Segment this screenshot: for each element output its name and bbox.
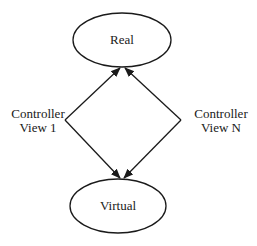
node-real: Real <box>73 13 171 67</box>
label-view1-line1: Controller <box>11 106 65 121</box>
virtual-label: Virtual <box>100 198 136 213</box>
label-view1-line2: View 1 <box>19 120 56 135</box>
label-controller-view-n: Controller View N <box>194 106 248 135</box>
arrow-view1-to-virtual <box>65 120 120 178</box>
label-controller-view-1: Controller View 1 <box>11 106 65 135</box>
label-viewn-line2: View N <box>201 120 242 135</box>
edges-controller-view-1 <box>65 68 120 178</box>
arrow-viewn-to-real <box>125 68 181 120</box>
arrow-view1-to-real <box>65 68 120 120</box>
real-label: Real <box>110 32 134 47</box>
label-viewn-line1: Controller <box>194 106 248 121</box>
node-virtual: Virtual <box>70 179 166 233</box>
diagram-canvas: Real Virtual Controller View 1 Controlle… <box>0 0 257 246</box>
arrow-viewn-to-virtual <box>124 120 181 178</box>
edges-controller-view-n <box>124 68 181 178</box>
